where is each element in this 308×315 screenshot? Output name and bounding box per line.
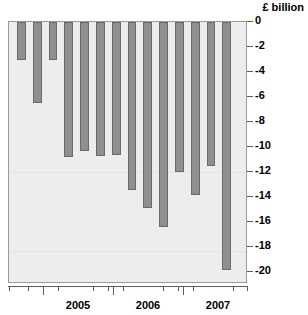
x-axis-minor-tick <box>178 286 179 291</box>
x-axis-label: 2005 <box>66 299 90 311</box>
y-axis-tick <box>247 71 253 72</box>
x-axis-major-tick <box>183 286 184 295</box>
bar <box>159 22 168 227</box>
x-axis-minor-tick <box>247 286 248 291</box>
y-axis-label: -14 <box>255 190 271 201</box>
bars-layer <box>9 22 246 282</box>
y-axis-label: -4 <box>255 65 265 76</box>
y-axis-tick <box>247 121 253 122</box>
x-axis-label: 2006 <box>136 299 160 311</box>
x-axis-major-tick <box>113 286 114 295</box>
y-axis-label: -2 <box>255 40 265 51</box>
y-axis-tick <box>247 96 253 97</box>
y-axis-tick <box>247 271 253 272</box>
y-axis-tick <box>247 21 253 22</box>
x-axis-label: 2007 <box>206 299 230 311</box>
y-axis-label: -10 <box>255 140 271 151</box>
x-axis-minor-tick <box>108 286 109 291</box>
x-axis-line <box>8 286 248 287</box>
x-axis-minor-tick <box>233 286 234 291</box>
x-axis-minor-tick <box>93 286 94 291</box>
x-axis-minor-tick <box>9 286 10 291</box>
bar <box>222 22 231 270</box>
y-axis-tick <box>247 146 253 147</box>
y-axis-label: -8 <box>255 115 265 126</box>
y-axis-label: 0 <box>255 15 261 26</box>
bar-chart: £ billion 0-2-4-6-8-10-12-14-16-18-20 20… <box>0 0 308 315</box>
bar <box>207 22 216 166</box>
y-axis-label: -12 <box>255 165 271 176</box>
bar <box>175 22 184 172</box>
plot-area <box>8 21 247 283</box>
x-axis-minor-tick <box>28 286 29 291</box>
bar <box>128 22 137 190</box>
y-axis: 0-2-4-6-8-10-12-14-16-18-20 <box>247 21 308 283</box>
x-axis-minor-tick <box>58 286 59 291</box>
bar <box>17 22 26 60</box>
bar <box>96 22 105 156</box>
y-axis-label: -6 <box>255 90 265 101</box>
x-axis-major-tick <box>43 286 44 295</box>
bar <box>143 22 152 208</box>
bar <box>33 22 42 103</box>
bar <box>64 22 73 157</box>
y-axis-label: -20 <box>255 265 271 276</box>
x-axis: 200520062007 <box>8 286 248 315</box>
x-axis-minor-tick <box>163 286 164 291</box>
y-axis-tick <box>247 196 253 197</box>
bar <box>49 22 58 60</box>
y-axis-label: -16 <box>255 215 271 226</box>
bar <box>191 22 200 195</box>
bar <box>80 22 89 151</box>
x-axis-minor-tick <box>123 286 124 291</box>
y-axis-label: -18 <box>255 240 271 251</box>
y-axis-tick <box>247 221 253 222</box>
y-axis-tick <box>247 246 253 247</box>
plot-faint-line <box>9 251 246 252</box>
y-axis-tick <box>247 171 253 172</box>
x-axis-minor-tick <box>193 286 194 291</box>
y-axis-tick <box>247 46 253 47</box>
bar <box>112 22 121 155</box>
axis-unit-caption: £ billion <box>262 1 304 13</box>
